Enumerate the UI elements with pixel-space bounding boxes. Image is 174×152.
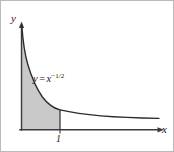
x-tick-label-1: 1 [56,134,61,144]
curve-equation-label: y=x−1/2 [33,74,64,85]
equation-exponent: −1/2 [51,72,64,80]
equation-lhs: y [33,73,38,84]
y-axis-label: y [11,13,16,24]
function-plot [1,1,174,152]
x-axis-label: x [162,124,167,135]
equation-operator: = [39,73,45,84]
figure-container: y x 1 y=x−1/2 [0,0,174,152]
